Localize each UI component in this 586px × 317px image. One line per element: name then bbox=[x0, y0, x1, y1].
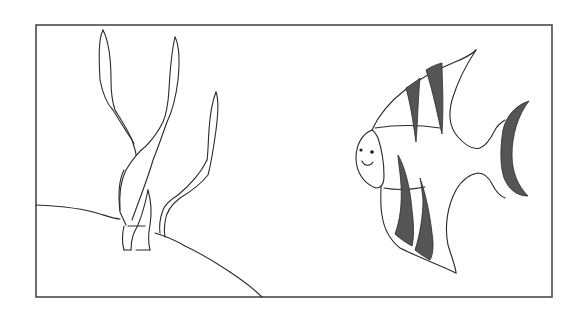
fish-stripe bbox=[426, 63, 443, 134]
picture-frame bbox=[36, 25, 552, 297]
fish-stripe bbox=[406, 78, 420, 142]
fish-tail bbox=[501, 101, 529, 196]
fish-stripe bbox=[415, 178, 433, 260]
seaweed bbox=[99, 30, 218, 250]
fish-stripe bbox=[395, 155, 414, 246]
fish-smile bbox=[362, 161, 373, 165]
angelfish bbox=[356, 50, 529, 273]
illustration bbox=[0, 0, 586, 317]
fish-eye-left bbox=[359, 148, 362, 151]
fish-eye-right bbox=[370, 150, 374, 154]
drawing-canvas bbox=[0, 0, 586, 317]
seabed bbox=[36, 205, 262, 297]
